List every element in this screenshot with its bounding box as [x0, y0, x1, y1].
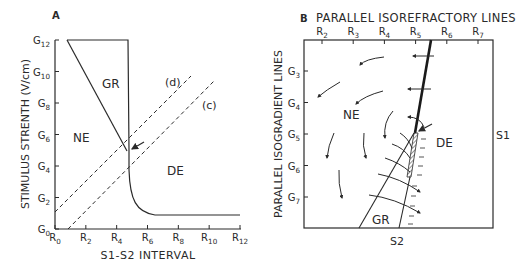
flow-arrow-icon — [356, 91, 383, 104]
y-tick-label: G4 — [38, 161, 51, 175]
y-tick-label: G6 — [38, 130, 51, 144]
x-tick-label: R6 — [441, 26, 453, 40]
x-tick-label: R5 — [410, 26, 422, 40]
panel-b-x-ticks: R2R3R4R5R6R7 — [316, 26, 484, 44]
x-tick-label: R12 — [232, 232, 248, 246]
x-tick-label: R8 — [173, 232, 185, 246]
x-tick-label: R6 — [142, 232, 154, 246]
x-tick-label: R2 — [80, 232, 92, 246]
region-gr-label: GR — [102, 77, 120, 91]
panel-b-y-ticks: G3G4G5G6G7 — [288, 66, 308, 206]
panel-b-title: PARALLEL ISOREFRACTORY LINES — [316, 11, 516, 25]
panel-a-letter: A — [52, 10, 60, 21]
y-tick-label: G8 — [38, 98, 51, 112]
pointer-arrow-icon — [419, 124, 432, 131]
x-tick-label: R0 — [49, 232, 61, 246]
flow-arrow-icon — [339, 170, 342, 198]
flow-arrow-icon — [385, 111, 393, 138]
panel-b-letter: B — [300, 13, 308, 24]
dashed-label-c: (c) — [202, 99, 217, 112]
s1-label: S1 — [496, 129, 510, 142]
x-tick-label: R4 — [111, 232, 123, 246]
y-tick-label: G7 — [288, 192, 300, 206]
y-tick-label: G12 — [33, 35, 50, 49]
flow-arrow-icon — [360, 57, 384, 65]
region-ne-label: NE — [73, 131, 90, 145]
panel-a: A G0G2G4G6G8G10G12 R0R2R4R6R8R10R12 STIM… — [19, 10, 248, 262]
region-de-label-b: DE — [436, 136, 453, 150]
figure: A G0G2G4G6G8G10G12 R0R2R4R6R8R10R12 STIM… — [0, 0, 520, 267]
y-tick-label: G2 — [38, 193, 50, 207]
y-tick-label: G3 — [288, 66, 300, 80]
arc-line — [385, 158, 410, 172]
region-de-label: DE — [167, 164, 184, 178]
dashed-line-c — [68, 80, 215, 229]
flow-arrow-icon — [363, 133, 366, 158]
panel-b-y-label: PARALLEL ISOGRADIENT LINES — [272, 50, 285, 218]
flow-arrow-icon — [318, 82, 340, 97]
x-tick-label: R7 — [472, 26, 484, 40]
s2-label: S2 — [390, 235, 404, 248]
y-tick-label: G10 — [33, 67, 50, 81]
region-ne-label-b: NE — [343, 108, 360, 122]
x-tick-label: R2 — [316, 26, 328, 40]
panel-b: B PARALLEL ISOREFRACTORY LINES R2R3R4R5R… — [272, 11, 516, 248]
region-gr-label-b: GR — [372, 213, 390, 227]
panel-a-y-label: STIMULUS STRENTH (V/cm) — [19, 59, 32, 209]
arrow-icon — [132, 142, 144, 149]
panel-a-x-ticks: R0R2R4R6R8R10R12 — [49, 225, 248, 246]
dashed-label-d: (d) — [165, 76, 181, 89]
y-tick-label: G5 — [288, 129, 300, 143]
ne-flow-arrows — [318, 57, 393, 198]
y-tick-label: G4 — [288, 98, 301, 112]
arc-arrow-icon — [378, 174, 420, 192]
flow-arrow-icon — [327, 133, 334, 158]
y-tick-label: G6 — [288, 161, 301, 175]
x-tick-label: R3 — [347, 26, 359, 40]
de-threshold-curve — [129, 150, 240, 215]
x-tick-label: R4 — [379, 26, 391, 40]
panel-b-frame — [304, 40, 493, 228]
x-tick-label: R10 — [201, 232, 218, 246]
panel-a-x-label: S1-S2 INTERVAL — [100, 249, 195, 262]
